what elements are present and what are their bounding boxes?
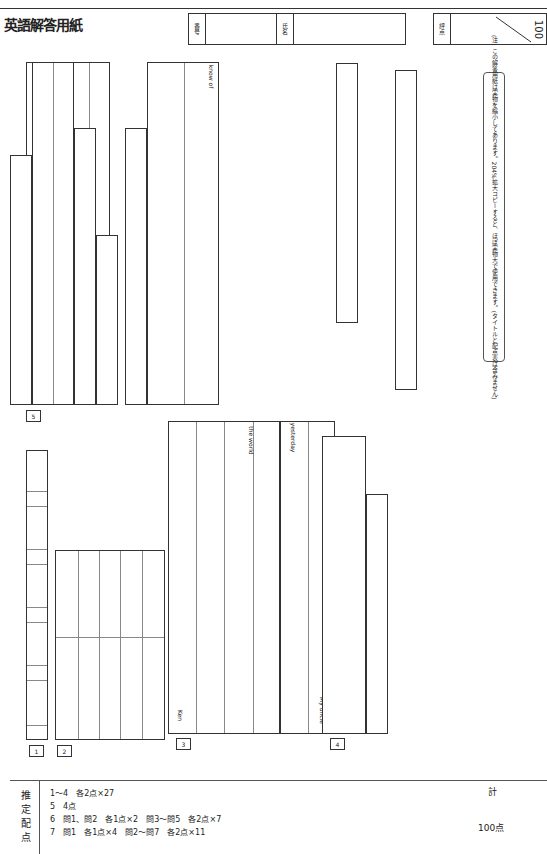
number-input[interactable] [206,14,277,44]
score-max: 100 [533,20,544,39]
section-6-q3[interactable] [32,62,74,405]
name-label: 氏名 [277,14,294,44]
section-7-q1[interactable] [125,128,147,405]
number-label: 番号 [189,14,206,44]
section-2-label: 2 [57,745,72,757]
section-4-row-a[interactable] [322,436,366,734]
section-2-answer[interactable] [55,550,165,740]
header-rule [0,8,547,9]
section-6-q5[interactable] [96,235,118,405]
s3-prefill-3: the world [248,426,255,454]
section-6-q1-q2[interactable] [10,155,32,405]
section-5-label: 5 [26,410,41,422]
page-title: 英語解答用紙 [4,14,82,34]
section-7-q7[interactable] [395,70,417,390]
scoring-title: 推定配点 [10,781,40,854]
s3-prefill-4: yesterday [290,423,297,453]
name-input[interactable] [294,14,405,44]
total-label: 計 [488,785,497,798]
note-box: (注) この解答用紙は実物を縮小してあります。204%拡大コピーすると、ほぼ実物… [483,72,505,362]
section-7-q4-q5[interactable] [336,63,358,323]
score-label: 評点 [434,14,451,44]
section-1-label: 1 [29,745,44,757]
section-3-label: 3 [176,738,191,750]
section-1-answer[interactable] [26,450,48,740]
section-6-q4[interactable] [74,128,96,405]
score-input[interactable]: 100 [451,14,546,44]
section-7-q2[interactable]: know of [147,62,219,405]
scoring-table: 推定配点 1～4 各2点×27 5 4点 6 問1、問2 各1点×2 問3～問5… [10,780,547,853]
section-7-q2-suffix: know of [209,65,216,89]
total-value: 100点 [478,821,504,834]
section-4-label: 4 [330,738,345,750]
s3-prefill-1: Ken [177,710,184,721]
number-field[interactable]: 番号 氏名 [188,13,406,45]
scoring-lines: 1～4 各2点×27 5 4点 6 問1、問2 各1点×2 問3～問5 各2点×… [50,787,221,839]
section-4-row-b[interactable] [366,494,388,734]
section-3-answer[interactable]: Ken the world [168,421,280,734]
